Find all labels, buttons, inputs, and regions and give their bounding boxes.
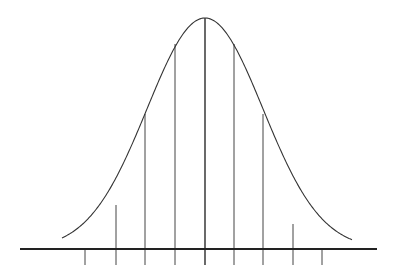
bell-curve-svg	[0, 0, 395, 278]
bell-curve-diagram	[0, 0, 395, 278]
vertical-lines	[85, 18, 322, 265]
bell-curve	[62, 18, 352, 240]
